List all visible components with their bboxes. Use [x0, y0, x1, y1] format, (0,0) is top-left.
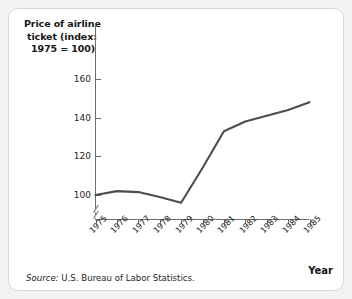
source-value: U.S. Bureau of Labor Statistics.: [61, 273, 194, 283]
x-axis-title: Year: [273, 265, 333, 276]
data-line-series: [9, 9, 344, 291]
figure-container: Price of airline ticket (index: 1975 = 1…: [0, 0, 352, 299]
source-label: Source:: [26, 273, 59, 283]
source-note: Source: U.S. Bureau of Labor Statistics.: [26, 273, 195, 283]
price-index-line: [96, 102, 310, 203]
chart-card: Price of airline ticket (index: 1975 = 1…: [8, 8, 344, 291]
